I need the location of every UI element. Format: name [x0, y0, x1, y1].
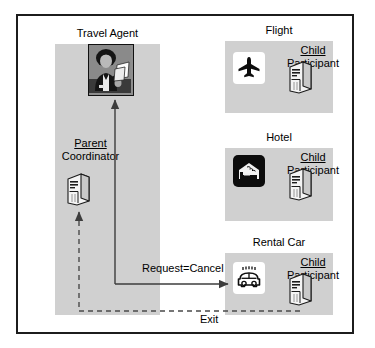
label-child-role-rental-car: Child [300, 256, 325, 268]
server-tower-icon-child-hotel [288, 167, 314, 201]
airplane-icon [233, 52, 265, 84]
label-parent-coordinator-name: Coordinator [62, 150, 119, 162]
label-hotel: Hotel [225, 131, 333, 144]
label-child-role-flight: Child [300, 44, 325, 56]
server-tower-icon-parent-coordinator [66, 172, 92, 206]
label-travel-agent: Travel Agent [55, 27, 160, 40]
label-parent-coordinator-role: Parent [74, 137, 106, 149]
label-exit: Exit [200, 313, 218, 326]
hotel-bed-icon [233, 155, 265, 187]
label-rental-car: Rental Car [225, 236, 333, 249]
label-parent-coordinator: Parent Coordinator [48, 137, 133, 163]
label-child-role-hotel: Child [300, 151, 325, 163]
car-icon [233, 262, 265, 294]
person-photo-icon [88, 44, 134, 96]
diagram-canvas: Travel Agent Flight Hotel Rental Car Par… [0, 0, 375, 348]
server-tower-icon-child-rental-car [288, 272, 314, 306]
server-tower-icon-child-flight [288, 60, 314, 94]
label-flight: Flight [225, 24, 333, 37]
label-request-cancel: Request=Cancel [142, 262, 224, 275]
